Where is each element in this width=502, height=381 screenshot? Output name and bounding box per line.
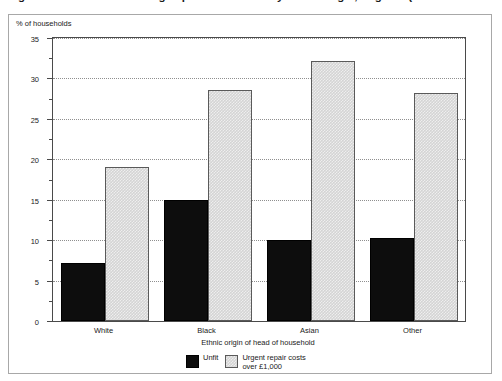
y-axis-tick-label: 5 [35,277,39,286]
legend-label-urgent: Urgent repair costs over £1,000 [242,354,305,372]
legend-label-urgent-line2: over £1,000 [242,363,305,372]
y-axis-tick-major: 30 [47,78,53,79]
category-label-asian: Asian [300,326,319,335]
bar-black-urgent [208,90,252,321]
bar-white-urgent [105,167,149,321]
bar-other-unfit [370,238,414,321]
y-axis-tick-label: 10 [31,237,39,246]
y-axis-tick-minor [49,301,53,302]
gridline [53,119,465,120]
y-axis-tick-minor [49,139,53,140]
x-axis-title: Ethnic origin of head of household [201,338,314,347]
bar-asian-unfit [267,240,311,321]
y-axis-tick-major: 15 [47,200,53,201]
figure-title: Figure 8.7: Households living in poor co… [8,0,502,2]
plot-area: 05101520253035 [52,37,466,322]
gridline [53,78,465,79]
y-axis-tick-label: 25 [31,115,39,124]
y-axis-tick-label: 30 [31,75,39,84]
legend-item-urgent: Urgent repair costs over £1,000 [225,354,305,372]
y-axis-tick-minor [49,220,53,221]
legend-label-unfit: Unfit [203,354,218,363]
legend-item-unfit: Unfit [186,354,218,368]
y-axis-tick-major: 35 [47,38,53,39]
gridline [53,159,465,160]
y-axis-tick-minor [49,99,53,100]
y-axis-tick-label: 35 [31,35,39,44]
category-label-black: Black [197,326,215,335]
legend-swatch-unfit-icon [186,355,199,368]
bar-black-unfit [164,200,208,321]
legend-swatch-urgent-icon [225,355,238,368]
gridline [53,38,465,39]
y-axis-tick-minor [49,180,53,181]
y-axis-tick-major: 0 [47,321,53,322]
legend-label-unfit-line1: Unfit [203,354,218,363]
bar-other-urgent [414,93,458,321]
category-label-other: Other [403,326,422,335]
chart-page: Figure 8.7: Households living in poor co… [0,0,502,381]
y-axis-tick-label: 20 [31,156,39,165]
plot-inner: 05101520253035 [53,38,465,321]
y-axis-tick-major: 5 [47,281,53,282]
y-axis-tick-label: 0 [35,318,39,327]
y-axis-tick-label: 15 [31,196,39,205]
category-label-white: White [94,326,113,335]
y-axis-tick-major: 25 [47,119,53,120]
bar-white-unfit [61,263,105,321]
y-axis-tick-minor [49,260,53,261]
y-axis-caption: % of households [16,19,71,28]
bar-asian-urgent [311,61,355,321]
y-axis-tick-major: 10 [47,240,53,241]
chart-legend: Unfit Urgent repair costs over £1,000 [186,354,306,372]
y-axis-tick-minor [49,58,53,59]
y-axis-tick-major: 20 [47,159,53,160]
